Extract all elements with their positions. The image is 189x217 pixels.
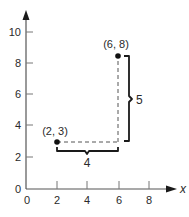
- y-tick-label: 10: [9, 26, 21, 38]
- x-tick-label: 8: [146, 194, 152, 206]
- x-tick-label: 2: [54, 194, 60, 206]
- point-marker-icon: [54, 139, 60, 145]
- x-axis-arrow-icon: [166, 186, 177, 193]
- y-tick-label: 0: [15, 183, 21, 195]
- coordinate-diagram: 0 2 4 6 8 10 0 2 4 6 8 x: [0, 0, 189, 217]
- point-marker-icon: [115, 53, 121, 59]
- y-axis: 0 2 4 6 8 10: [9, 10, 33, 195]
- horizontal-distance-label: 4: [84, 156, 91, 170]
- vertical-distance-label: 5: [136, 93, 143, 107]
- x-tick-label: 0: [24, 194, 30, 206]
- y-tick-label: 6: [15, 88, 21, 100]
- vertical-brace: 5: [124, 56, 143, 141]
- horizontal-brace: 4: [57, 147, 118, 170]
- y-tick-label: 4: [15, 119, 21, 131]
- point-a-label: (2, 3): [42, 125, 68, 137]
- x-axis: 0 2 4 6 8 x: [24, 181, 187, 206]
- point-a: (2, 3): [42, 125, 68, 145]
- y-axis-arrow-icon: [23, 10, 30, 20]
- y-tick-label: 2: [15, 151, 21, 163]
- x-axis-label: x: [179, 182, 187, 196]
- point-b-label: (6, 8): [103, 38, 129, 50]
- x-tick-label: 6: [116, 194, 122, 206]
- x-tick-label: 4: [84, 194, 90, 206]
- y-tick-label: 8: [15, 57, 21, 69]
